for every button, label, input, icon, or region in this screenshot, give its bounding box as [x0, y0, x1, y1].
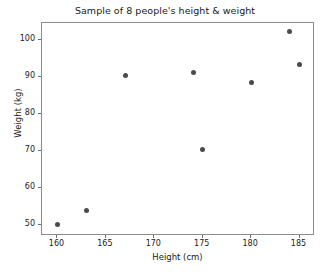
y-tick-label: 50 [6, 219, 35, 228]
y-tick [38, 113, 41, 114]
x-tick-label: 175 [184, 239, 220, 248]
chart-title: Sample of 8 people's height & weight [0, 5, 330, 16]
x-tick [105, 235, 106, 238]
y-tick-label: 100 [6, 34, 35, 43]
data-point [191, 70, 196, 75]
x-tick-label: 160 [38, 239, 74, 248]
y-tick [38, 76, 41, 77]
x-tick-label: 165 [87, 239, 123, 248]
data-point [249, 80, 254, 85]
y-tick [38, 224, 41, 225]
x-tick [56, 235, 57, 238]
chart-figure: Sample of 8 people's height & weight 160… [0, 0, 330, 275]
data-point [55, 222, 60, 227]
data-point [84, 208, 89, 213]
data-point [123, 73, 128, 78]
y-tick-label: 60 [6, 182, 35, 191]
scatter-series [42, 23, 313, 234]
data-point [297, 62, 302, 67]
y-tick [38, 187, 41, 188]
x-tick [202, 235, 203, 238]
x-tick-label: 185 [281, 239, 317, 248]
x-tick-label: 180 [232, 239, 268, 248]
x-axis-label: Height (cm) [41, 252, 314, 262]
data-point [200, 147, 205, 152]
x-tick [153, 235, 154, 238]
plot-area [41, 22, 314, 235]
x-tick-label: 170 [135, 239, 171, 248]
x-tick [299, 235, 300, 238]
data-point [287, 29, 292, 34]
y-tick [38, 150, 41, 151]
y-axis-label: Weight (kg) [13, 43, 23, 183]
y-tick [38, 39, 41, 40]
x-tick [250, 235, 251, 238]
